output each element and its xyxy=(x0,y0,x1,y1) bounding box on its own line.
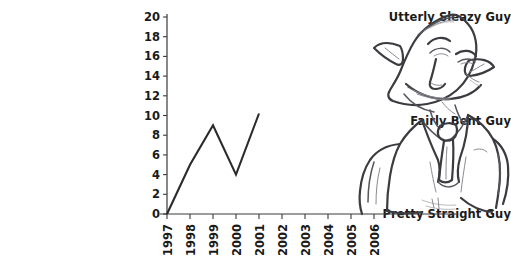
y-axis-tick-label: 14 xyxy=(144,69,160,83)
x-axis-tick-label: 1999 xyxy=(207,224,221,256)
chart-canvas: Utterly Sleazy Guy Fairly Bent Guy Prett… xyxy=(0,0,511,277)
x-axis-tick-label: 1998 xyxy=(184,224,198,256)
y-axis-tick-label: 4 xyxy=(152,168,160,182)
y-axis-tick-label: 0 xyxy=(152,207,160,221)
y-axis-tick-labels: 02468101214161820 xyxy=(144,10,160,221)
x-axis-tick-label: 2002 xyxy=(276,224,290,256)
y-axis-tick-label: 10 xyxy=(144,109,160,123)
x-axis-tick-label: 2004 xyxy=(322,224,336,256)
x-axis-tick-label: 2006 xyxy=(368,224,382,256)
y-axis-tick-label: 20 xyxy=(144,10,160,24)
x-axis-tick-labels: 1997199819992000200120022003200420052006 xyxy=(161,224,382,256)
y-axis-tick-label: 6 xyxy=(152,148,160,162)
x-axis-tick-label: 2005 xyxy=(345,224,359,256)
x-axis-tick-label: 2003 xyxy=(299,224,313,256)
y-axis-tick-label: 8 xyxy=(152,128,160,142)
y-axis-tick-label: 16 xyxy=(144,49,160,63)
y-axis-tick-label: 18 xyxy=(144,30,160,44)
y-axis-tick-label: 2 xyxy=(152,187,160,201)
cartoon-sleazy-man-illustration xyxy=(318,2,511,222)
x-axis-tick-label: 1997 xyxy=(161,224,175,256)
x-axis-tick-label: 2000 xyxy=(230,224,244,256)
data-series-line xyxy=(167,114,259,215)
x-axis-tick-label: 2001 xyxy=(253,224,267,256)
y-axis-tick-label: 12 xyxy=(144,89,160,103)
